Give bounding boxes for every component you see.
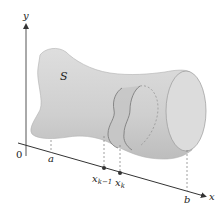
point-xk (118, 171, 122, 175)
x-axis-label: x (209, 191, 215, 202)
label-b: b (184, 194, 190, 205)
y-axis-label: y (22, 10, 29, 21)
label-xk: xk (115, 177, 125, 190)
solid-slice-diagram: y S x 0 a xk−1 xk b (0, 0, 224, 213)
point-xk-1 (102, 166, 106, 170)
solid-label: S (60, 70, 68, 83)
end-cap (166, 71, 206, 151)
solid-s: S (31, 48, 206, 159)
label-a: a (48, 153, 54, 164)
label-xk-1: xk−1 (92, 173, 112, 186)
origin-label: 0 (16, 149, 22, 160)
